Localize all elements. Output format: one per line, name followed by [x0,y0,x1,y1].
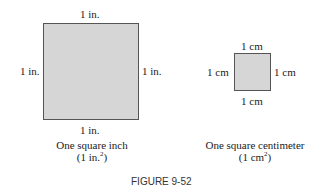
caption-unit-close: ) [104,151,108,163]
caption-unit-text: (1 in. [77,151,100,163]
square-cm-left-label: 1 cm [207,66,229,78]
square-cm-caption: One square centimeter (1 cm2) [200,139,310,163]
caption-unit-text: (1 cm [239,151,264,163]
figure-label: FIGURE 9-52 [131,176,192,187]
square-inch-right-label: 1 in. [142,65,162,77]
square-inch-top-label: 1 in. [80,8,100,20]
square-cm-shape [234,53,271,91]
square-cm-bottom-label: 1 cm [241,95,263,107]
square-inch-caption: One square inch (1 in.2) [47,139,137,163]
square-inch-shape [43,23,139,120]
caption-unit-close: ) [268,151,272,163]
square-inch-bottom-label: 1 in. [80,124,100,136]
square-cm-caption-unit: (1 cm2) [200,151,310,163]
square-inch-caption-title: One square inch [47,139,137,151]
square-inch-left-label: 1 in. [20,65,40,77]
square-cm-right-label: 1 cm [274,66,296,78]
square-cm-caption-title: One square centimeter [200,139,310,151]
square-inch-caption-unit: (1 in.2) [47,151,137,163]
square-cm-top-label: 1 cm [241,40,263,52]
